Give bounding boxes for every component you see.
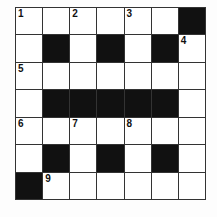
black-square <box>43 145 69 171</box>
black-square <box>125 90 151 116</box>
clue-number: 3 <box>127 9 133 19</box>
black-square <box>97 90 123 116</box>
crossword-cell[interactable] <box>125 173 151 199</box>
crossword-cell[interactable] <box>70 173 96 199</box>
clue-number: 1 <box>18 9 24 19</box>
black-square <box>152 145 178 171</box>
clue-number: 7 <box>72 119 78 129</box>
crossword-cell[interactable] <box>152 173 178 199</box>
crossword-cell[interactable]: 3 <box>125 8 151 34</box>
crossword-cell[interactable]: 5 <box>16 63 42 89</box>
black-square <box>152 90 178 116</box>
crossword-cell[interactable] <box>125 145 151 171</box>
crossword-cell[interactable] <box>97 173 123 199</box>
black-square <box>70 90 96 116</box>
crossword-cell[interactable] <box>70 35 96 61</box>
clue-number: 2 <box>72 9 78 19</box>
crossword-cell[interactable] <box>43 63 69 89</box>
crossword-cell[interactable] <box>97 63 123 89</box>
black-square <box>97 145 123 171</box>
crossword-cell[interactable] <box>70 63 96 89</box>
crossword-cell[interactable]: 9 <box>43 173 69 199</box>
crossword-cell[interactable]: 1 <box>16 8 42 34</box>
black-square <box>16 173 42 199</box>
black-square <box>97 35 123 61</box>
clue-number: 9 <box>45 174 51 184</box>
crossword-cell[interactable] <box>179 90 205 116</box>
crossword-cell[interactable] <box>179 173 205 199</box>
crossword-cell[interactable]: 6 <box>16 118 42 144</box>
clue-number: 6 <box>18 119 24 129</box>
crossword-cell[interactable] <box>152 8 178 34</box>
crossword-cell[interactable] <box>16 90 42 116</box>
crossword-cell[interactable] <box>125 63 151 89</box>
crossword-cell[interactable] <box>152 118 178 144</box>
black-square <box>152 35 178 61</box>
crossword-cell[interactable] <box>43 118 69 144</box>
crossword-cell[interactable]: 8 <box>125 118 151 144</box>
crossword-cell[interactable] <box>179 63 205 89</box>
black-square <box>43 90 69 116</box>
crossword-grid: 123456789 <box>15 7 206 200</box>
black-square <box>179 8 205 34</box>
crossword-cell[interactable]: 7 <box>70 118 96 144</box>
clue-number: 8 <box>127 119 133 129</box>
crossword-cell[interactable] <box>43 8 69 34</box>
crossword-cell[interactable] <box>16 35 42 61</box>
clue-number: 5 <box>18 64 24 74</box>
crossword-cell[interactable]: 4 <box>179 35 205 61</box>
crossword-cell[interactable] <box>16 145 42 171</box>
crossword-cell[interactable] <box>97 8 123 34</box>
crossword-cell[interactable] <box>70 145 96 171</box>
clue-number: 4 <box>181 36 187 46</box>
crossword-cell[interactable] <box>179 145 205 171</box>
black-square <box>43 35 69 61</box>
crossword-cell[interactable] <box>97 118 123 144</box>
crossword-cell[interactable]: 2 <box>70 8 96 34</box>
crossword-cell[interactable] <box>152 63 178 89</box>
crossword-cell[interactable] <box>179 118 205 144</box>
crossword-cell[interactable] <box>125 35 151 61</box>
